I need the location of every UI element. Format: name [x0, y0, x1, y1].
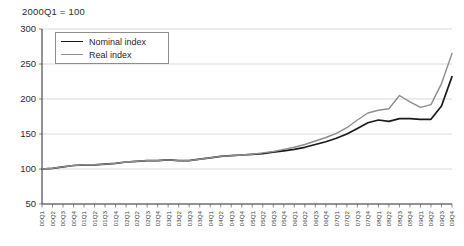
- x-axis-tick-label: 05Q1: [249, 210, 256, 226]
- x-axis-tick-label: 03Q4: [196, 210, 203, 226]
- series-line-real-index: [42, 54, 452, 170]
- x-axis-tick-label: 00Q1: [38, 210, 45, 226]
- x-axis-tick-label: 07Q3: [354, 210, 361, 226]
- x-axis-tick-label: 03Q3: [186, 210, 193, 226]
- legend-item-real: Real index: [56, 48, 168, 61]
- legend-item-nominal: Nominal index: [56, 35, 168, 48]
- x-axis-tick-label: 06Q4: [322, 210, 329, 226]
- x-axis-tick-label: 02Q4: [154, 210, 161, 226]
- x-axis-tick-label: 08Q2: [385, 210, 392, 226]
- x-axis-tick-label: 02Q3: [144, 210, 151, 226]
- x-axis-tick-label: 09Q1: [417, 210, 424, 226]
- x-axis-tick-label: 09Q2: [427, 210, 434, 226]
- x-axis-tick-label: 00Q2: [49, 210, 56, 226]
- x-axis-tick-label: 08Q3: [396, 210, 403, 226]
- x-axis-tick-label: 00Q4: [70, 210, 77, 226]
- y-axis-tick-label: 300: [20, 23, 36, 34]
- x-axis-tick-label: 02Q1: [123, 210, 130, 226]
- x-axis-tick-label: 06Q1: [291, 210, 298, 226]
- x-axis-tick-label: 01Q4: [112, 210, 119, 226]
- legend-swatch-nominal: [61, 41, 83, 42]
- x-axis-tick-label: 09Q3: [438, 210, 445, 226]
- x-axis-tick-label: 08Q4: [406, 210, 413, 226]
- x-axis-tick-label: 01Q1: [80, 210, 87, 226]
- x-axis-tick-label: 06Q3: [312, 210, 319, 226]
- x-axis-tick-label: 07Q1: [333, 210, 340, 226]
- x-axis-tick-label: 03Q2: [175, 210, 182, 226]
- x-axis-tick-label: 05Q3: [270, 210, 277, 226]
- x-axis-tick-label: 06Q2: [301, 210, 308, 226]
- y-axis-tick-label: 150: [20, 128, 36, 139]
- x-axis-tick-label: 04Q1: [207, 210, 214, 226]
- legend-label-real: Real index: [89, 50, 132, 60]
- x-axis-tick-label: 01Q2: [91, 210, 98, 226]
- y-axis-tick-label: 200: [20, 93, 36, 104]
- x-axis-tick-label: 02Q2: [133, 210, 140, 226]
- x-axis-tick-label: 04Q3: [228, 210, 235, 226]
- x-axis-tick-label: 01Q3: [101, 210, 108, 226]
- x-axis-tick-label: 05Q2: [259, 210, 266, 226]
- x-axis-tick-label: 05Q4: [280, 210, 287, 226]
- x-axis-tick-label: 04Q2: [217, 210, 224, 226]
- legend-label-nominal: Nominal index: [89, 37, 146, 47]
- y-axis-tick-label: 100: [20, 163, 36, 174]
- chart-legend: Nominal index Real index: [55, 32, 169, 64]
- x-axis-tick-label: 08Q1: [375, 210, 382, 226]
- x-axis-tick-label: 07Q2: [343, 210, 350, 226]
- y-axis-tick-label: 50: [25, 198, 36, 209]
- legend-swatch-real: [61, 54, 83, 55]
- x-axis-tick-label: 07Q4: [364, 210, 371, 226]
- chart-container: 2000Q1 = 100 5010015020025030000Q100Q200…: [0, 0, 464, 246]
- x-axis-tick-label: 00Q3: [59, 210, 66, 226]
- x-axis-tick-label: 03Q1: [165, 210, 172, 226]
- x-axis-tick-label: 04Q4: [238, 210, 245, 226]
- y-axis-tick-label: 250: [20, 58, 36, 69]
- x-axis-tick-label: 09Q4: [448, 210, 455, 226]
